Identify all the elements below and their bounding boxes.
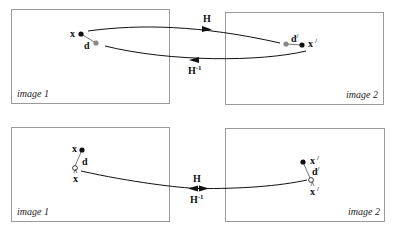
- label-Hinv-top: H-1: [188, 64, 202, 76]
- label-dprime: d/: [312, 165, 321, 177]
- label-Hinv-bottom: H-1: [190, 193, 204, 205]
- hat-accent: ^: [73, 168, 78, 177]
- label-H-top: H: [203, 13, 211, 24]
- hat-accent: ^: [310, 181, 315, 190]
- image-1-caption-top: image 1: [17, 88, 49, 99]
- label-d: d: [84, 40, 90, 51]
- diagram-canvas: image 1 image 2 H H-1 x d d/ x/ image 1 …: [0, 0, 394, 230]
- point-projected-Hx: [283, 41, 288, 46]
- point-xprime: [300, 159, 305, 164]
- forward-homography-arrow-top: [88, 27, 280, 43]
- label-xprime: x/: [308, 37, 318, 49]
- label-d: d: [82, 156, 88, 167]
- point-xprime: [299, 42, 304, 47]
- point-projected-Hinv-xprime: [93, 40, 98, 45]
- label-H-bottom: H: [193, 173, 201, 184]
- image-2-caption-bottom: image 2: [348, 206, 380, 217]
- point-x: [78, 31, 83, 36]
- label-x: x: [72, 143, 77, 154]
- label-dprime: d/: [291, 32, 300, 44]
- image-1-caption-bottom: image 1: [17, 206, 49, 217]
- arrowhead-right-icon: [199, 186, 209, 192]
- label-x: x: [70, 28, 75, 39]
- inverse-homography-arrow-top: [105, 46, 306, 59]
- distance-segment-dprime: [303, 162, 310, 178]
- image-2-caption-top: image 2: [346, 89, 378, 100]
- arrowhead-left-icon: [188, 186, 198, 192]
- point-x: [79, 147, 84, 152]
